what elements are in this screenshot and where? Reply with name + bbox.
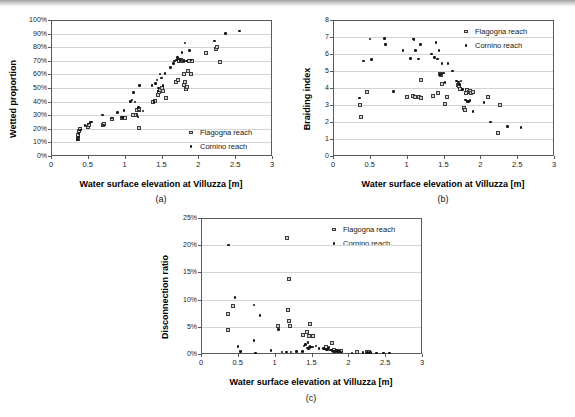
data-point-flagogna xyxy=(285,236,289,240)
chart-panel-c: Disconnection ratio Water surface elevat… xyxy=(145,212,432,412)
y-axis-tick-label: 8 xyxy=(295,16,329,24)
gridline xyxy=(52,34,271,35)
y-axis-tick-label: 50% xyxy=(13,84,47,92)
data-point-cornino xyxy=(402,49,405,52)
data-point-cornino xyxy=(472,110,475,113)
x-axis-tick-label: 1.5 xyxy=(148,160,176,169)
data-point-cornino xyxy=(375,352,378,355)
y-axis-tick-label: 40% xyxy=(13,98,47,106)
data-point-flagogna xyxy=(288,324,292,328)
legend-entry-cornino: Cornino reach xyxy=(460,40,527,51)
data-point-cornino xyxy=(84,124,87,127)
x-axis-tick-label: 1 xyxy=(261,358,289,367)
data-point-cornino xyxy=(469,99,472,102)
x-axis-tick xyxy=(51,156,52,159)
legend-entry-flagogna: Flagogna reach xyxy=(460,26,527,37)
data-point-flagogna xyxy=(436,91,440,95)
data-point-cornino xyxy=(444,81,447,84)
x-axis-tick xyxy=(198,156,199,159)
data-point-flagogna xyxy=(471,90,475,94)
y-axis-tick xyxy=(330,54,333,55)
y-axis-tick-label: 30% xyxy=(13,111,47,119)
data-point-cornino xyxy=(370,58,373,61)
gridline xyxy=(334,122,553,123)
y-axis-tick-label: 6 xyxy=(295,50,329,58)
x-axis-tick-label: 0.5 xyxy=(356,160,384,169)
y-axis-tick xyxy=(48,142,51,143)
data-point-flagogna xyxy=(215,45,219,49)
data-point-cornino xyxy=(123,109,126,112)
data-point-flagogna xyxy=(189,72,193,76)
data-point-cornino xyxy=(392,90,395,93)
data-point-cornino xyxy=(277,328,280,331)
open-square-marker-icon xyxy=(328,228,340,232)
chart-b-xlabel: Water surface elevation at Villuzza [m] xyxy=(313,179,573,189)
data-point-flagogna xyxy=(330,341,334,345)
gridline xyxy=(334,139,553,140)
x-axis-tick xyxy=(88,156,89,159)
data-point-cornino xyxy=(76,138,79,141)
legend-label-cornino: Cornino reach xyxy=(343,238,390,249)
y-axis-tick xyxy=(330,139,333,140)
y-axis-tick xyxy=(330,122,333,123)
open-square-marker-icon xyxy=(460,30,472,34)
y-axis-tick-label: 10% xyxy=(163,296,197,304)
legend-label-flagogna: Flagogna reach xyxy=(475,26,527,37)
filled-dot-marker-icon xyxy=(460,44,472,47)
data-point-flagogna xyxy=(218,60,222,64)
data-point-flagogna xyxy=(463,108,467,112)
y-axis-tick-label: 25% xyxy=(163,214,197,222)
y-axis-tick xyxy=(48,115,51,116)
data-point-cornino xyxy=(77,136,80,139)
data-point-cornino xyxy=(185,60,188,63)
gridline xyxy=(202,272,421,273)
data-point-cornino xyxy=(438,49,441,52)
legend-label-cornino: Cornino reach xyxy=(475,40,522,51)
data-point-flagogna xyxy=(445,95,449,99)
data-point-cornino xyxy=(362,60,365,63)
data-point-cornino xyxy=(237,345,240,348)
data-point-cornino xyxy=(121,116,124,119)
y-axis-tick xyxy=(48,88,51,89)
data-point-cornino xyxy=(169,66,172,69)
gridline xyxy=(334,88,553,89)
legend-label-flagogna: Flagogna reach xyxy=(343,224,395,235)
data-point-cornino xyxy=(151,84,154,87)
x-axis-tick xyxy=(444,156,445,159)
data-point-cornino xyxy=(116,111,119,114)
data-point-flagogna xyxy=(231,304,235,308)
y-axis-tick-label: 0 xyxy=(295,152,329,160)
x-axis-tick xyxy=(480,156,481,159)
x-axis-tick-label: 1.5 xyxy=(298,358,326,367)
data-point-cornino xyxy=(78,132,81,135)
gridline xyxy=(334,54,553,55)
data-point-flagogna xyxy=(358,103,362,107)
y-axis-tick xyxy=(330,20,333,21)
legend-entry-cornino: Cornino reach xyxy=(328,238,395,249)
y-axis-tick-label: 60% xyxy=(13,70,47,78)
data-point-flagogna xyxy=(287,277,291,281)
x-axis-tick xyxy=(125,156,126,159)
data-point-cornino xyxy=(388,352,391,355)
data-point-flagogna xyxy=(405,95,409,99)
legend-entry-flagogna: Flagogna reach xyxy=(328,224,395,235)
x-axis-tick xyxy=(407,156,408,159)
data-point-cornino xyxy=(307,341,310,344)
x-axis-tick-label: 2.5 xyxy=(371,358,399,367)
y-axis-tick xyxy=(198,218,201,219)
data-point-flagogna xyxy=(496,131,500,135)
y-axis-tick-label: 0% xyxy=(13,152,47,160)
data-point-flagogna xyxy=(185,85,189,89)
data-point-flagogna xyxy=(226,312,230,316)
y-axis-tick xyxy=(330,105,333,106)
data-point-flagogna xyxy=(308,322,312,326)
y-axis-tick xyxy=(330,88,333,89)
x-axis-tick xyxy=(162,156,163,159)
gridline xyxy=(52,102,271,103)
gridline xyxy=(52,61,271,62)
y-axis-tick xyxy=(330,71,333,72)
data-point-flagogna xyxy=(176,78,180,82)
data-point-flagogna xyxy=(226,328,230,332)
y-axis-tick-label: 80% xyxy=(13,43,47,51)
data-point-flagogna xyxy=(204,51,208,55)
